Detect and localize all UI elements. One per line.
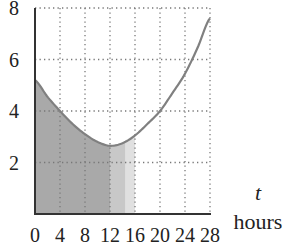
- x-tick-label: 16: [125, 224, 145, 246]
- x-tick-label: 4: [55, 224, 65, 246]
- x-tick-label: 8: [80, 224, 90, 246]
- chart: 2468 0481216202428 t hours: [0, 0, 287, 248]
- x-tick-label: 28: [200, 224, 220, 246]
- x-tick-labels: 0481216202428: [30, 224, 220, 246]
- y-tick-label: 6: [9, 49, 19, 71]
- shaded-region: [126, 135, 135, 214]
- x-tick-label: 20: [150, 224, 170, 246]
- x-tick-label: 12: [100, 224, 120, 246]
- y-tick-label: 8: [9, 0, 19, 19]
- x-axis-variable: t: [255, 180, 262, 205]
- x-tick-label: 24: [175, 224, 195, 246]
- shaded-region: [110, 142, 126, 214]
- y-tick-label: 2: [9, 152, 19, 174]
- y-tick-labels: 2468: [9, 0, 19, 174]
- y-tick-label: 4: [9, 100, 19, 122]
- shaded-region: [35, 80, 110, 214]
- x-axis-unit: hours: [234, 209, 283, 234]
- x-tick-label: 0: [30, 224, 40, 246]
